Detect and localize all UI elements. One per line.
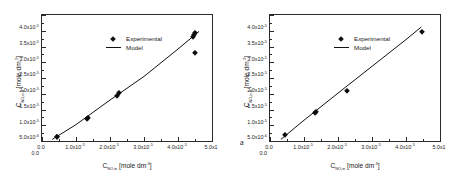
y-tick-minor xyxy=(270,70,272,71)
x-tick-label: 3.0x10-5 xyxy=(133,145,153,150)
x-tick-minor xyxy=(423,139,424,141)
panel-a-y-axis-title: CNO,out [mole dm-3] xyxy=(15,27,22,137)
y-tick-minor xyxy=(42,70,44,71)
x-tick xyxy=(144,137,145,141)
y-tick-minor xyxy=(42,102,44,103)
y-tick xyxy=(270,110,274,111)
line-symbol-icon xyxy=(104,47,122,48)
diamond-marker-icon xyxy=(332,37,350,41)
x-tick-minor xyxy=(287,139,288,141)
y-tick xyxy=(270,15,274,16)
y-tick xyxy=(270,78,274,79)
diamond-marker-icon xyxy=(104,37,122,41)
y-tick xyxy=(42,47,46,48)
panel-a-x-tick-labels: 0.01.0x10-52.0x10-53.0x10-54.0x10-55.0x1 xyxy=(41,145,213,157)
panel-a-plot-area: Experimental Model a xyxy=(41,14,213,142)
y-tick-label: 0.0 xyxy=(260,151,268,156)
x-tick-label: 5.0x1 xyxy=(204,145,217,150)
y-tick xyxy=(42,94,46,95)
panel-a-x-axis-title: CNO,in [mole dm-3] xyxy=(41,162,213,169)
x-tick-label: 4.0x10-5 xyxy=(167,145,187,150)
x-tick-minor xyxy=(93,139,94,141)
y-tick xyxy=(42,78,46,79)
x-tick-label: 0.0 xyxy=(265,145,273,150)
legend-row-experimental: Experimental xyxy=(332,34,390,43)
x-tick-minor xyxy=(161,139,162,141)
y-tick xyxy=(42,141,46,142)
y-tick-minor xyxy=(42,23,44,24)
x-tick xyxy=(76,137,77,141)
panel-b-x-axis-title: CNO,in [mole dm-3] xyxy=(269,162,441,169)
legend-label-model: Model xyxy=(350,43,371,52)
y-tick xyxy=(270,47,274,48)
y-tick-minor xyxy=(270,117,272,118)
x-tick xyxy=(440,137,441,141)
y-tick xyxy=(270,94,274,95)
x-tick xyxy=(110,137,111,141)
y-tick-minor xyxy=(270,102,272,103)
x-tick xyxy=(372,137,373,141)
y-tick xyxy=(42,62,46,63)
legend-row-model: Model xyxy=(332,43,390,52)
x-tick-label: 1.0x10-5 xyxy=(65,145,85,150)
y-tick xyxy=(42,31,46,32)
x-tick-minor xyxy=(127,139,128,141)
y-tick-minor xyxy=(270,54,272,55)
legend-label-experimental: Experimental xyxy=(350,34,390,43)
legend-row-model: Model xyxy=(104,43,162,52)
figure-two-panel-scatter: 0.05.0x10-61.0x10-51.5x10-52.0x10-52.5x1… xyxy=(0,0,456,184)
y-tick-minor xyxy=(270,39,272,40)
x-tick-label: 2.0x10-5 xyxy=(99,145,119,150)
panel-b-y-axis-title: CNO,out [mole dm-3] xyxy=(243,27,250,137)
y-tick xyxy=(270,62,274,63)
x-tick xyxy=(406,137,407,141)
x-tick-minor xyxy=(321,139,322,141)
x-tick xyxy=(42,137,43,141)
y-tick-minor xyxy=(42,39,44,40)
y-tick-minor xyxy=(270,133,272,134)
panel-b-plot-area: Experimental Model b xyxy=(269,14,441,142)
x-tick-minor xyxy=(195,139,196,141)
x-tick-label: 1.0x10-5 xyxy=(293,145,313,150)
x-tick-label: 4.0x10-5 xyxy=(395,145,415,150)
panel-b: 0.05.0x10-61.0x10-51.5x10-52.0x10-52.5x1… xyxy=(228,0,456,184)
panel-a-legend: Experimental Model xyxy=(104,34,162,52)
y-tick-label: 0.0 xyxy=(32,151,40,156)
x-tick-minor xyxy=(389,139,390,141)
y-tick-minor xyxy=(42,54,44,55)
y-tick xyxy=(42,125,46,126)
line-symbol-icon xyxy=(332,47,350,48)
x-tick-label: 2.0x10-5 xyxy=(327,145,347,150)
y-tick xyxy=(270,141,274,142)
panel-b-x-tick-labels: 0.01.0x10-52.0x10-53.0x10-54.0x10-55.0x1 xyxy=(269,145,441,157)
y-tick-minor xyxy=(42,133,44,134)
y-tick xyxy=(270,31,274,32)
legend-row-experimental: Experimental xyxy=(104,34,162,43)
y-tick-minor xyxy=(270,23,272,24)
x-tick-label: 0.0 xyxy=(37,145,45,150)
x-tick xyxy=(178,137,179,141)
x-tick xyxy=(338,137,339,141)
y-tick xyxy=(42,110,46,111)
legend-label-model: Model xyxy=(122,43,143,52)
legend-label-experimental: Experimental xyxy=(122,34,162,43)
x-tick-label: 5.0x1 xyxy=(432,145,445,150)
y-tick xyxy=(42,15,46,16)
x-tick-label: 3.0x10-5 xyxy=(361,145,381,150)
y-tick-minor xyxy=(42,117,44,118)
x-tick xyxy=(270,137,271,141)
x-tick-minor xyxy=(355,139,356,141)
panel-a: 0.05.0x10-61.0x10-51.5x10-52.0x10-52.5x1… xyxy=(0,0,228,184)
y-tick-minor xyxy=(270,86,272,87)
x-tick-minor xyxy=(59,139,60,141)
y-tick xyxy=(270,125,274,126)
panel-b-legend: Experimental Model xyxy=(332,34,390,52)
x-tick xyxy=(212,137,213,141)
y-tick-minor xyxy=(42,86,44,87)
x-tick xyxy=(304,137,305,141)
